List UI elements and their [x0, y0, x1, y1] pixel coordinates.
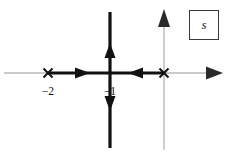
locus-arrow-right-icon	[75, 68, 90, 79]
imaginary-axis-arrow-icon	[158, 9, 170, 27]
real-axis-arrow-icon	[206, 67, 223, 80]
tick-label-minus-2: −2	[42, 85, 54, 97]
s-plane-label-text: s	[190, 11, 218, 39]
locus-arrow-left-icon	[128, 68, 143, 79]
tick-label-minus-1: −1	[104, 85, 116, 97]
locus-arrow-down-icon	[105, 96, 116, 111]
root-locus-figure: −2 −1 s	[0, 0, 230, 156]
s-plane-label-box: s	[189, 10, 219, 40]
locus-arrow-up-icon	[105, 43, 116, 58]
